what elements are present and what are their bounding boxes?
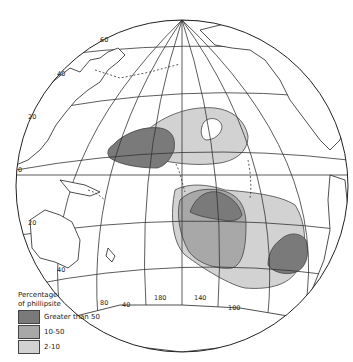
legend-title-line2: of phillipsite	[18, 300, 138, 309]
swatch-mid	[18, 325, 40, 339]
swatch-low	[18, 340, 40, 354]
legend-label-high: Greater than 50	[44, 313, 100, 321]
lat-label-0: 0	[18, 166, 22, 174]
legend-item-high: Greater than 50	[18, 309, 138, 324]
legend-item-low: 2-10	[18, 339, 138, 354]
asia-landmass	[16, 48, 125, 165]
zone-gt50-north	[108, 128, 175, 168]
legend-label-low: 2-10	[44, 343, 60, 351]
lon-label-180: 180	[154, 294, 166, 302]
lat-label-20n: 20	[28, 113, 36, 121]
australia-landmass	[30, 210, 80, 268]
legend-item-mid: 10-50	[18, 324, 138, 339]
lat-label-40: 40	[57, 70, 65, 78]
legend: Percentage of phillipsite Greater than 5…	[18, 291, 138, 354]
new-guinea	[60, 180, 100, 196]
lat-label-40s: 40	[57, 266, 65, 274]
swatch-high	[18, 310, 40, 324]
new-zealand	[106, 248, 115, 262]
legend-title-line1: Percentage	[18, 291, 138, 300]
legend-label-mid: 10-50	[44, 328, 64, 336]
lat-label-20s: 20	[28, 219, 36, 227]
lon-label-140: 140	[194, 294, 206, 302]
lon-label-100: 100	[228, 304, 240, 312]
lat-label-60: 60	[100, 36, 108, 44]
